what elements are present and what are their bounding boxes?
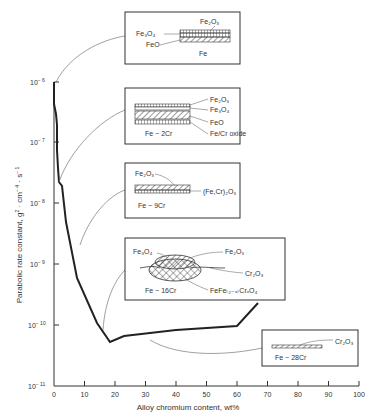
fe2cr-alloy: Fe − 2Cr	[145, 130, 173, 137]
svg-text:90: 90	[325, 391, 333, 398]
fe2cr-layer1: Fe₂O₃	[210, 96, 229, 103]
fe-layer1: Fe₂O₃	[200, 18, 219, 25]
fe16cr-layer2: Fe₂O₃	[225, 248, 244, 255]
svg-text:10: 10	[81, 391, 89, 398]
x-tick-labels: 0 10 20 30 40 50 60 70 80 90 100	[52, 391, 365, 398]
x-axis-label: Alloy chromium content, wt%	[137, 403, 240, 412]
inset-fe-16cr: Fe₃O₄ Fe₂O₃ Cr₂O₃ FeFe₍₂₋ₓ₎CrₓO₄ Fe − 16…	[125, 238, 285, 300]
fe-layer2: Fe₃O₄	[136, 30, 155, 37]
svg-text:10− 8: 10− 8	[30, 198, 45, 207]
fe9cr-layer1: Fe₂O₃	[135, 170, 154, 177]
svg-text:50: 50	[203, 391, 211, 398]
x-axis	[54, 381, 359, 386]
svg-text:40: 40	[172, 391, 180, 398]
fe-alloy: Fe	[199, 50, 207, 57]
svg-text:80: 80	[294, 391, 302, 398]
svg-text:10− 10: 10− 10	[28, 320, 46, 329]
svg-text:10− 6: 10− 6	[30, 77, 45, 86]
fe9cr-alloy: Fe − 9Cr	[138, 202, 166, 209]
y-axis-label: Parabolic rate constant, g2 · cm− 4 · s−…	[14, 166, 24, 303]
fe2cr-layer3: FeO	[210, 119, 224, 126]
fe28cr-alloy: Fe − 28Cr	[275, 354, 307, 361]
fe28cr-layer1: Cr₂O₃	[335, 338, 354, 345]
fe2cr-layer2: Fe₃O₄	[210, 106, 229, 113]
inset-fe-9cr: Fe₂O₃ (Fe,Cr)₂O₃ Fe − 9Cr	[125, 163, 240, 218]
svg-text:0: 0	[52, 391, 56, 398]
fe-layer3: FeO	[146, 41, 160, 48]
svg-text:30: 30	[142, 391, 150, 398]
svg-text:10− 7: 10− 7	[30, 137, 45, 146]
inset-fe: Fe₂O₃ Fe₃O₄ FeO Fe	[125, 12, 240, 64]
svg-text:70: 70	[264, 391, 272, 398]
svg-text:10− 9: 10− 9	[30, 259, 45, 268]
fe16cr-alloy: Fe − 16Cr	[145, 287, 177, 294]
inset-fe-2cr: Fe₂O₃ Fe₃O₄ FeO Fe/Cr oxide Fe − 2Cr	[125, 88, 246, 144]
fe9cr-layer2: (Fe,Cr)₂O₃	[203, 188, 236, 196]
fe16cr-layer1: Fe₃O₄	[133, 248, 152, 255]
inset-fe-28cr: Cr₂O₃ Fe − 28Cr	[262, 330, 358, 366]
oxidation-rate-chart: 10− 6 10− 7 10− 8 10− 9 10− 10 10− 11 0 …	[0, 0, 370, 419]
fe2cr-layer4: Fe/Cr oxide	[210, 130, 246, 137]
y-tick-labels: 10− 6 10− 7 10− 8 10− 9 10− 10 10− 11	[28, 77, 46, 390]
svg-text:100: 100	[353, 391, 365, 398]
fe16cr-layer3: Cr₂O₃	[245, 270, 264, 277]
svg-text:60: 60	[233, 391, 241, 398]
fe16cr-layer4: FeFe₍₂₋ₓ₎CrₓO₄	[210, 287, 257, 294]
svg-text:20: 20	[111, 391, 119, 398]
svg-text:10− 11: 10− 11	[28, 381, 46, 390]
